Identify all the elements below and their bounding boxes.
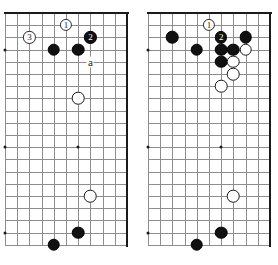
diagram-right[interactable]: 21 <box>145 10 274 253</box>
grid-line-horizontal <box>5 220 128 221</box>
grid-line-horizontal <box>5 50 128 51</box>
grid-line-horizontal <box>148 196 271 197</box>
grid-line-horizontal <box>5 208 128 209</box>
black-stone[interactable] <box>215 56 228 69</box>
grid-line-horizontal <box>148 159 271 160</box>
black-stone[interactable] <box>72 43 85 56</box>
star-point <box>147 146 150 149</box>
grid-line-vertical <box>42 13 43 246</box>
grid-line-horizontal <box>148 135 271 136</box>
black-stone[interactable] <box>72 226 85 239</box>
grid-line-horizontal <box>148 62 271 63</box>
grid-line-horizontal <box>5 98 128 99</box>
board-edge-top <box>147 12 272 14</box>
grid-line-vertical <box>90 13 91 246</box>
go-diagram-figure: 213a21 <box>0 0 278 265</box>
grid-line-vertical <box>172 13 173 246</box>
grid-line-horizontal <box>5 159 128 160</box>
white-stone[interactable] <box>215 80 228 93</box>
board-edge-right <box>269 12 271 247</box>
board-edge-top <box>4 12 129 14</box>
grid-line-horizontal <box>148 50 271 51</box>
point-label-a: a <box>87 56 94 67</box>
star-point <box>77 146 80 149</box>
grid-line-horizontal <box>148 123 271 124</box>
grid-line-horizontal <box>148 233 271 234</box>
black-stone-move-2[interactable]: 2 <box>215 31 227 43</box>
black-stone[interactable] <box>48 43 61 56</box>
black-stone[interactable] <box>215 226 228 239</box>
grid-line-horizontal <box>148 98 271 99</box>
grid-line-vertical <box>66 13 67 246</box>
grid-line-horizontal <box>5 74 128 75</box>
grid-line-vertical <box>17 13 18 246</box>
black-stone[interactable] <box>48 239 61 252</box>
grid-line-vertical <box>103 13 104 246</box>
white-stone-move-1[interactable]: 1 <box>60 19 72 31</box>
star-point <box>4 48 7 51</box>
star-point <box>147 231 150 234</box>
star-point <box>147 48 150 51</box>
white-stone[interactable] <box>227 190 240 203</box>
grid-line-horizontal <box>5 184 128 185</box>
grid-line-horizontal <box>5 245 128 246</box>
grid-line-horizontal <box>148 86 271 87</box>
grid-line-horizontal <box>5 86 128 87</box>
grid-line-horizontal <box>148 245 271 246</box>
grid-line-vertical <box>209 13 210 246</box>
black-stone[interactable] <box>215 43 228 56</box>
black-stone[interactable] <box>191 239 204 252</box>
white-stone[interactable] <box>239 43 252 56</box>
white-stone[interactable] <box>84 190 97 203</box>
grid-line-horizontal <box>5 172 128 173</box>
grid-line-horizontal <box>148 147 271 148</box>
grid-line-vertical <box>258 13 259 246</box>
grid-line-vertical <box>160 13 161 246</box>
grid-line-horizontal <box>5 135 128 136</box>
grid-line-horizontal <box>148 74 271 75</box>
white-stone[interactable] <box>227 56 240 69</box>
grid-line-vertical <box>185 13 186 246</box>
white-stone[interactable] <box>227 68 240 81</box>
grid-line-horizontal <box>5 123 128 124</box>
diagram-left[interactable]: 213 <box>2 10 131 253</box>
white-stone[interactable] <box>72 92 85 105</box>
grid-line-horizontal <box>148 172 271 173</box>
grid-line-horizontal <box>5 233 128 234</box>
black-stone-move-2[interactable]: 2 <box>84 31 96 43</box>
star-point <box>4 146 7 149</box>
grid-line-horizontal <box>5 196 128 197</box>
grid-line-horizontal <box>5 111 128 112</box>
grid-line-horizontal <box>148 220 271 221</box>
grid-line-horizontal <box>148 184 271 185</box>
grid-line-vertical <box>115 13 116 246</box>
board-edge-right <box>126 12 128 247</box>
grid-line-horizontal <box>5 62 128 63</box>
grid-line-vertical <box>29 13 30 246</box>
black-stone[interactable] <box>227 43 240 56</box>
white-stone-move-3[interactable]: 3 <box>23 31 35 43</box>
black-stone[interactable] <box>166 31 179 44</box>
grid-line-horizontal <box>148 208 271 209</box>
grid-line-horizontal <box>148 111 271 112</box>
white-stone-move-1[interactable]: 1 <box>203 19 215 31</box>
grid-line-horizontal <box>5 147 128 148</box>
black-stone[interactable] <box>239 31 252 44</box>
star-point <box>4 231 7 234</box>
black-stone[interactable] <box>191 43 204 56</box>
star-point <box>220 146 223 149</box>
